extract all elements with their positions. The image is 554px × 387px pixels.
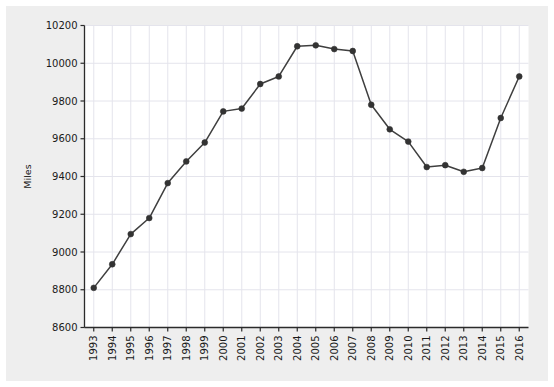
data-point-marker[interactable] <box>461 169 467 175</box>
x-tick-label: 2015 <box>495 336 506 361</box>
data-point-marker[interactable] <box>405 139 411 145</box>
data-point-marker[interactable] <box>146 215 152 221</box>
x-tick-label: 2013 <box>458 336 469 361</box>
data-point-marker[interactable] <box>109 261 115 267</box>
x-tick-label: 1993 <box>88 336 99 361</box>
x-tick-label: 1998 <box>181 336 192 361</box>
x-tick-label: 1995 <box>125 336 136 361</box>
chart-figure: 8600880090009200940096009800100001020019… <box>0 0 554 387</box>
x-tick-label: 2007 <box>347 336 358 361</box>
y-tick-label: 8600 <box>52 322 77 333</box>
y-axis-label: Miles <box>22 164 33 188</box>
data-point-marker[interactable] <box>165 180 171 186</box>
data-point-marker[interactable] <box>276 74 282 80</box>
data-point-marker[interactable] <box>313 42 319 48</box>
y-tick-label: 9800 <box>52 96 77 107</box>
x-tick-label: 1997 <box>162 336 173 361</box>
x-tick-label: 2006 <box>329 336 340 361</box>
data-point-marker[interactable] <box>331 46 337 52</box>
data-point-marker[interactable] <box>294 43 300 49</box>
data-point-marker[interactable] <box>368 102 374 108</box>
data-point-marker[interactable] <box>91 285 97 291</box>
data-point-marker[interactable] <box>498 115 504 121</box>
data-point-marker[interactable] <box>442 162 448 168</box>
x-tick-label: 2005 <box>310 336 321 361</box>
y-tick-label: 9200 <box>52 209 77 220</box>
x-tick-label: 2008 <box>366 336 377 361</box>
x-tick-label: 2002 <box>255 336 266 361</box>
data-point-marker[interactable] <box>424 164 430 170</box>
data-point-marker[interactable] <box>183 159 189 165</box>
x-tick-label: 1996 <box>144 336 155 361</box>
x-tick-label: 2016 <box>514 336 525 361</box>
x-tick-label: 2003 <box>273 336 284 361</box>
y-tick-label: 10200 <box>46 20 78 31</box>
x-tick-label: 1999 <box>199 336 210 361</box>
x-tick-label: 2010 <box>403 336 414 361</box>
x-tick-label: 2012 <box>440 336 451 361</box>
y-tick-label: 8800 <box>52 284 77 295</box>
x-tick-label: 2001 <box>236 336 247 361</box>
data-point-marker[interactable] <box>516 74 522 80</box>
x-tick-label: 2004 <box>292 336 303 361</box>
data-point-marker[interactable] <box>220 108 226 114</box>
y-tick-label: 9600 <box>52 133 77 144</box>
x-tick-label: 2009 <box>384 336 395 361</box>
x-tick-label: 2000 <box>218 336 229 361</box>
x-tick-label: 2011 <box>421 336 432 361</box>
data-point-marker[interactable] <box>479 165 485 171</box>
data-point-marker[interactable] <box>387 126 393 132</box>
data-point-marker[interactable] <box>202 140 208 146</box>
data-point-marker[interactable] <box>257 81 263 87</box>
x-tick-label: 2014 <box>477 336 488 361</box>
data-point-marker[interactable] <box>128 231 134 237</box>
plot-wrapper: 8600880090009200940096009800100001020019… <box>0 0 554 387</box>
line-chart: 8600880090009200940096009800100001020019… <box>0 0 554 387</box>
data-point-marker[interactable] <box>350 48 356 54</box>
x-tick-label: 1994 <box>107 336 118 361</box>
y-tick-label: 10000 <box>46 58 78 69</box>
y-tick-label: 9400 <box>52 171 77 182</box>
data-point-marker[interactable] <box>239 106 245 112</box>
y-tick-label: 9000 <box>52 247 77 258</box>
